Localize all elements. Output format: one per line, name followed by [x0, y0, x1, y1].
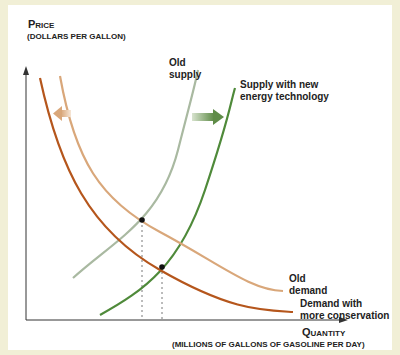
old-equilibrium-point — [139, 217, 145, 223]
old-supply-label: Old supply — [169, 57, 201, 80]
new-demand-label: Demand with more conservation — [300, 298, 389, 321]
new-supply-label: Supply with new energy technology — [240, 79, 329, 102]
x-axis-title: Quantity — [302, 326, 345, 339]
x-axis-subtitle: (MILLIONS OF GALLONS OF GASOLINE PER DAY… — [172, 340, 365, 349]
y-axis-title: Price — [28, 18, 54, 31]
y-axis — [23, 66, 29, 320]
new-demand-curve — [40, 78, 293, 312]
supply-shift-arrow — [192, 109, 224, 125]
demand-shift-arrow — [53, 106, 71, 121]
y-axis-subtitle: (DOLLARS PER GALLON) — [27, 32, 126, 41]
new-equilibrium-point — [159, 264, 165, 270]
old-demand-label: Old demand — [289, 273, 327, 296]
